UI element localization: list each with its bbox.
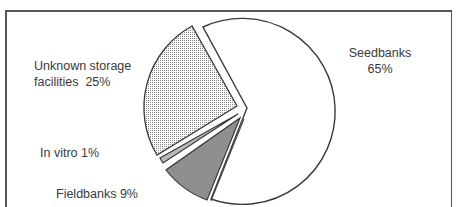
label-seedbanks: Seedbanks 65% [345, 45, 415, 77]
label-seedbanks-name: Seedbanks [345, 45, 415, 61]
label-unknown-line1: Unknown storage [34, 58, 131, 74]
label-fieldbanks: Fieldbanks 9% [56, 186, 138, 202]
label-unknown-storage: Unknown storage facilities 25% [34, 58, 131, 90]
label-unknown-line2: facilities 25% [34, 74, 131, 90]
pie-chart [0, 0, 459, 207]
label-invitro: In vitro 1% [40, 145, 99, 161]
label-seedbanks-pct: 65% [345, 61, 415, 77]
